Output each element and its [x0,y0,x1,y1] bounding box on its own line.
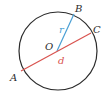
point-c-label: C [93,24,101,35]
point-a-label: A [9,72,17,83]
diameter-label: d [58,55,64,66]
circle-diagram: B C O A r d [0,0,107,101]
point-o-label: O [45,41,53,52]
radius-label: r [59,24,65,35]
point-b-label: B [74,3,82,14]
diameter-segment [21,33,91,71]
